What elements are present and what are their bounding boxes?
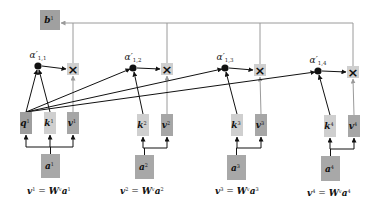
attention-weight-label-3: α′1,3 (217, 52, 234, 63)
attention-score-node-3 (221, 64, 228, 71)
key-to-score-arrow-2 (134, 72, 143, 114)
value-to-multiply-arrow-4 (353, 79, 354, 115)
value-equation-2: v2 = Wva2 (120, 186, 164, 196)
query-to-score-arrow-3 (26, 69, 222, 112)
key-to-score-arrow-3 (226, 72, 237, 114)
self-attention-diagram: b1×α′1,1q1k1v1a1v1 = Wva1×α′1,2k2v2a2v2 … (0, 0, 378, 207)
attention-score-node-2 (129, 64, 136, 71)
attention-weight-label-1: α′1,1 (30, 50, 47, 61)
multiply-icon-2: × (162, 62, 173, 77)
attention-weight-label-2: α′1,2 (125, 52, 142, 63)
query-to-score-arrow-4 (26, 72, 315, 112)
value-equation-4: v4 = Wva4 (307, 188, 351, 198)
score-to-multiply-arrow-4 (322, 71, 346, 72)
score-to-multiply-arrow-2 (137, 68, 160, 69)
key-to-score-arrow-4 (319, 75, 330, 115)
multiply-icon-1: × (68, 62, 79, 77)
attention-weight-label-4: α′1,4 (310, 55, 327, 66)
value-equation-1: v1 = Wva1 (27, 186, 71, 196)
score-to-multiply-arrow-3 (229, 68, 253, 70)
value-equation-3: v3 = Wva3 (215, 186, 259, 196)
query-to-score-arrow-1 (26, 70, 37, 112)
attention-score-node-1 (34, 62, 41, 69)
multiply-icon-3: × (255, 63, 266, 78)
score-to-multiply-arrow-1 (42, 66, 66, 69)
value-to-multiply-arrow-3 (260, 77, 261, 114)
multiply-icon-4: × (348, 65, 359, 80)
attention-score-node-4 (314, 67, 321, 74)
